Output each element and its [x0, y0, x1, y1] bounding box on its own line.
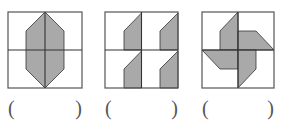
close-paren: ): [267, 96, 274, 120]
close-paren: ): [171, 96, 178, 120]
shaded-shape: [124, 13, 142, 50]
shaded-shape: [160, 13, 178, 50]
shaded-shape: [238, 31, 274, 50]
open-paren: (: [8, 96, 15, 120]
shaded-shape: [160, 51, 178, 88]
figure-2: [105, 12, 178, 88]
shaded-shape: [124, 51, 142, 88]
figure-3: [202, 12, 274, 88]
open-paren: (: [105, 96, 112, 120]
answer-blank[interactable]: (): [105, 96, 178, 120]
answer-blank[interactable]: (): [8, 96, 82, 120]
answer-blank[interactable]: (): [202, 96, 274, 120]
shaded-shape: [238, 50, 256, 88]
figure-1: [8, 12, 82, 88]
shaded-shape: [220, 12, 238, 50]
open-paren: (: [202, 96, 209, 120]
shaded-shape: [202, 50, 238, 69]
close-paren: ): [75, 96, 82, 120]
